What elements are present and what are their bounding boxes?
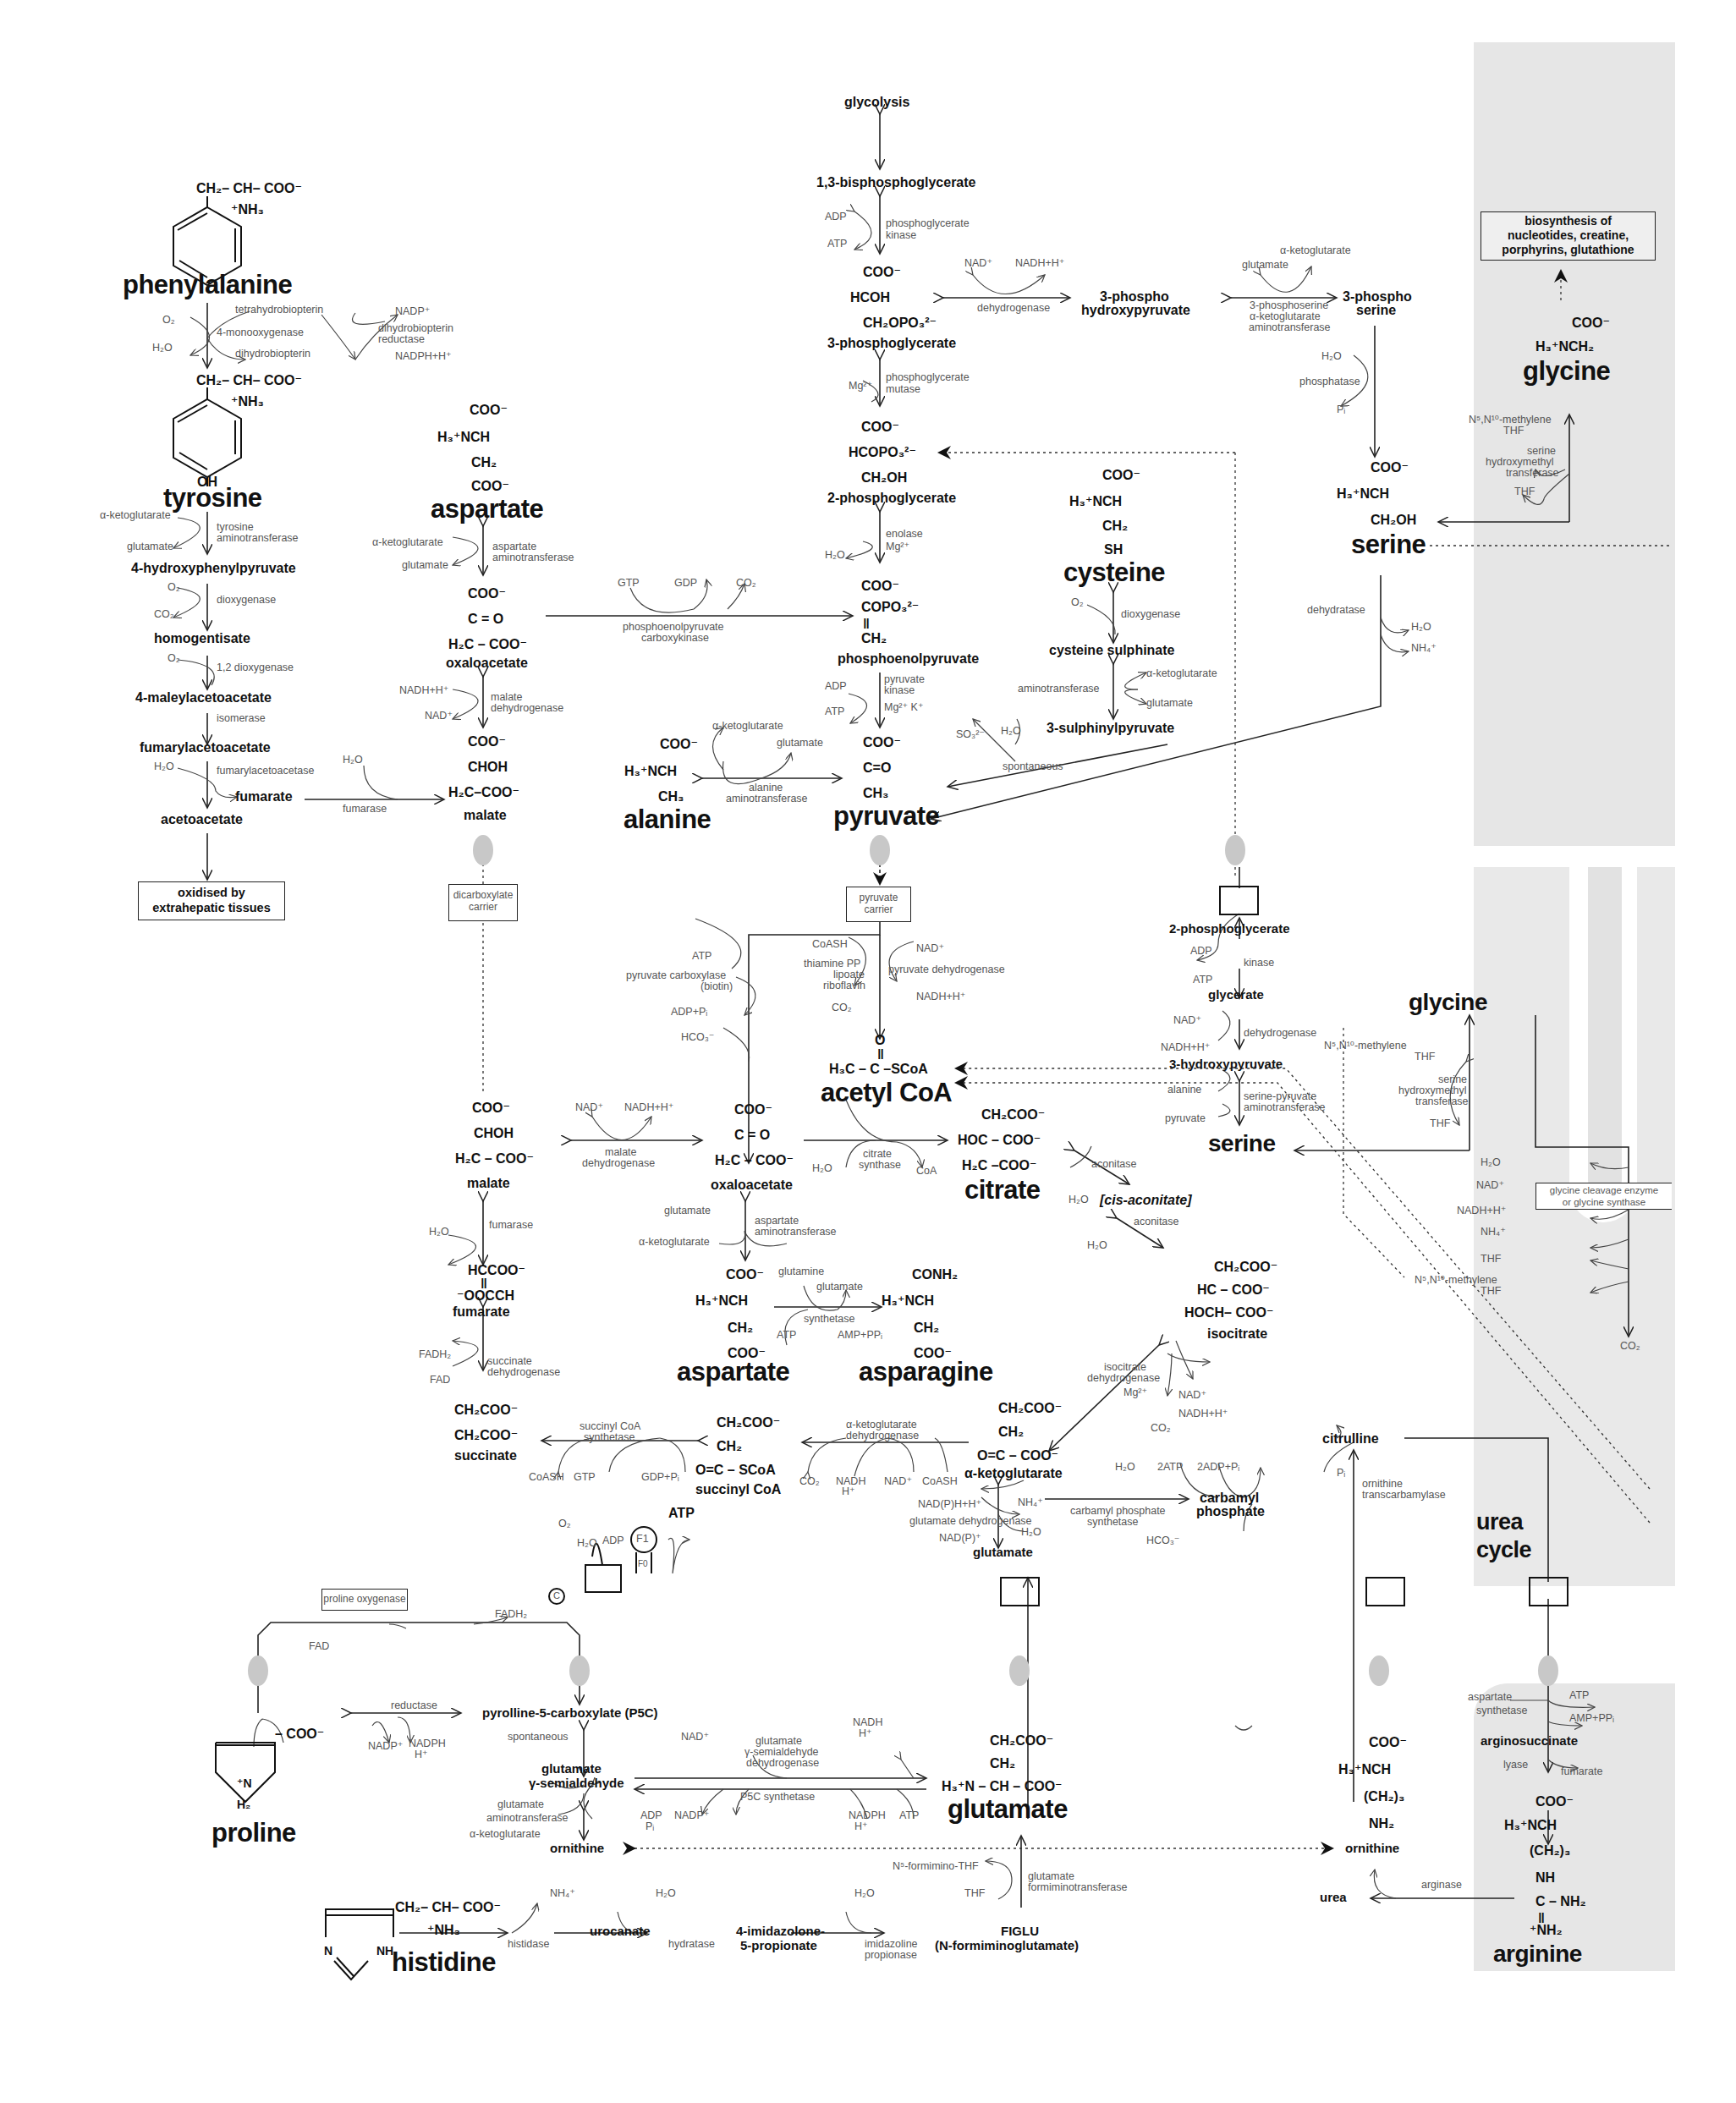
metabolite-pyruvate: pyruvate: [833, 802, 939, 831]
biosynthesis-box: biosynthesis of nucleotides, creatine, p…: [1481, 211, 1656, 261]
cofactor-fumarate-lyase: fumarate: [1561, 1766, 1602, 1778]
formula-glu-cyto-1: CH₂COO⁻: [990, 1732, 1053, 1749]
formula-ala-1: COO⁻: [660, 736, 698, 753]
cofactor-thf-ftcd: THF: [964, 1888, 985, 1900]
formula-glu-cyto-3: H₃⁺N – CH – COO⁻: [942, 1778, 1063, 1795]
enzyme-pc-2: (biotin): [700, 981, 733, 993]
cofactor-atp-p5cs: ATP: [899, 1810, 919, 1822]
enzyme-hydratase: hydratase: [668, 1939, 715, 1951]
cofactor-nadp-plus-gdh: NAD(P)⁺: [939, 1533, 981, 1545]
enzyme-histidase: histidase: [508, 1939, 549, 1951]
formula-scoa-3: O=C – SCoA: [695, 1462, 776, 1479]
cofactor-co2-pepck: CO₂: [736, 578, 756, 590]
enzyme-hppd: dioxygenase: [217, 595, 276, 607]
cofactor-methylene-thf-mito-1: N⁵,N¹⁰-methylene: [1324, 1041, 1407, 1052]
cofactor-nh4-gcs: NH₄⁺: [1481, 1227, 1506, 1238]
cofactor-h2o-aconitase-1: H₂O: [1069, 1194, 1089, 1206]
cofactor-glutamate-asns: glutamate: [816, 1282, 863, 1293]
metabolite-fumarate-cyto: fumarate: [235, 789, 293, 804]
formula-phe-1: CH₂– CH– COO⁻: [196, 180, 302, 197]
formula-pep-2: COPO₃²⁻: [861, 599, 919, 616]
urea-cycle-label-2: cycle: [1476, 1538, 1531, 1563]
enzyme-ass: synthetase: [1476, 1705, 1527, 1717]
metabolite-urea: urea: [1320, 1891, 1347, 1905]
cofactor-akg-cys: α-ketoglutarate: [1146, 668, 1217, 680]
cofactor-bh4: tetrahydrobiopterin: [235, 305, 323, 316]
enzyme-oat: aminotransferase: [486, 1813, 569, 1825]
cofactor-nh4-dehydratase: NH₄⁺: [1411, 643, 1437, 655]
metabolite-3-phospho-serine-2: serine: [1356, 303, 1396, 318]
cofactor-nadh-idh: NADH+H⁺: [1178, 1408, 1228, 1420]
cofactor-adp-kinase: ADP: [1190, 946, 1212, 958]
cofactor-nh4-gdh: NH₄⁺: [1018, 1497, 1043, 1509]
cofactor-mg: Mg²⁺: [849, 381, 872, 393]
cofactor-h2o-etc: H₂O: [577, 1538, 597, 1550]
cofactor-nadh-mdh-mito: NADH+H⁺: [624, 1102, 673, 1114]
metabolite-atp-bold: ATP: [668, 1506, 695, 1521]
formula-his-2: ⁺NH₃: [427, 1922, 460, 1939]
formula-scoa-2: CH₂: [717, 1438, 742, 1455]
formula-pyr-1: COO⁻: [863, 734, 901, 751]
formula-oaa-cyto-3: H₂C – COO⁻: [448, 636, 527, 653]
formula-ser-2: H₃⁺NCH: [1337, 486, 1389, 502]
cofactor-co2-pdh: CO₂: [832, 1002, 852, 1014]
enzyme-phosphoglycerate-kinase-2: kinase: [886, 230, 916, 242]
formula-arg-2: H₃⁺NCH: [1504, 1817, 1557, 1834]
metabolite-imidazolone-1: 4-imidazolone-: [736, 1925, 825, 1939]
metabolite-carbamyl-phosphate-1: carbamyl: [1200, 1491, 1259, 1506]
cofactor-methylene-thf-mito-2: THF: [1415, 1052, 1435, 1063]
biosynthesis-line-1: biosynthesis of: [1481, 214, 1655, 228]
metabolite-citrate: citrate: [964, 1176, 1041, 1205]
formula-isocit-3: HOCH– COO⁻: [1184, 1304, 1273, 1321]
formula-gly-top-1: COO⁻: [1572, 315, 1610, 332]
formula-glu-cyto-2: CH₂: [990, 1755, 1015, 1772]
metabolite-citrulline: citrulline: [1322, 1431, 1379, 1447]
cofactor-nadph-dhpr: NADPH+H⁺: [395, 351, 452, 363]
cofactor-adp-pi-pc: ADP+Pᵢ: [671, 1007, 707, 1019]
cofactor-h2o-hydratase: H₂O: [656, 1888, 676, 1900]
enzyme-tat-2: aminotransferase: [217, 533, 299, 545]
biosynthesis-line-2: nucleotides, creatine,: [1481, 228, 1655, 243]
enzyme-hgd: 1,2 dioxygenase: [217, 662, 294, 674]
formula-fum-mito-1: HCCOO⁻: [468, 1262, 525, 1279]
cofactor-h2o-gcs: H₂O: [1481, 1157, 1501, 1169]
cofactor-amp-ppi-ass: AMP+PPᵢ: [1569, 1713, 1614, 1725]
formula-gly-top-2: H₃⁺NCH₂: [1535, 338, 1594, 355]
formula-acoa-3: H₃C – C –SCoA: [829, 1061, 928, 1078]
complex-c-label: C: [553, 1590, 560, 1601]
enzyme-aconitase-1: aconitase: [1091, 1159, 1137, 1171]
metabolite-acetoacetate: acetoacetate: [161, 812, 243, 827]
enzyme-ast-mito-2: aminotransferase: [755, 1227, 837, 1238]
enzyme-psat-3: aminotransferase: [1249, 322, 1331, 334]
cofactor-h2o-gdh: H₂O: [1021, 1527, 1041, 1539]
cofactor-hco3-cps: HCO₃⁻: [1146, 1535, 1179, 1547]
metabolite-asparagine: asparagine: [859, 1358, 993, 1386]
enzyme-fumarase-mito: fumarase: [489, 1220, 533, 1232]
metabolite-cis-aconitate: [cis-aconitate]: [1100, 1193, 1191, 1208]
metabolite-ornithine-right: ornithine: [1345, 1842, 1399, 1856]
dicarboxylate-line-2: carrier: [449, 901, 517, 913]
formula-mal-mito-3: H₂C – COO⁻: [455, 1150, 534, 1167]
enzyme-pgdh: dehydrogenase: [977, 303, 1050, 315]
formula-2pg-2: HCOPO₃²⁻: [849, 444, 916, 461]
cofactor-nadp-p5c: NADP⁺: [368, 1741, 403, 1753]
metabolite-1-3-bisphosphoglycerate: 1,3-bisphosphoglycerate: [816, 175, 976, 190]
cofactor-gdp-pi-scs: GDP+Pᵢ: [641, 1472, 679, 1484]
cofactor-akg-tat: α-ketoglutarate: [100, 510, 171, 522]
formula-scoa-1: CH₂COO⁻: [717, 1414, 780, 1431]
cofactor-nadh-pdh: NADH+H⁺: [916, 991, 965, 1003]
cofactor-akg-ast-top: α-ketoglutarate: [372, 537, 443, 549]
cofactor-thf-top: THF: [1514, 486, 1535, 498]
cofactor-thf-mito: THF: [1430, 1118, 1450, 1130]
formula-akg-2: CH₂: [998, 1424, 1024, 1441]
oxidised-box: oxidised by extrahepatic tissues: [138, 881, 285, 920]
enzyme-phosphoglycerate-kinase-1: phosphoglycerate: [886, 218, 970, 230]
cofactor-2adp-pi-cps: 2ADP+Pᵢ: [1197, 1462, 1239, 1474]
cofactor-atp-asns: ATP: [777, 1330, 796, 1342]
enzyme-akgdh-2: dehydrogenase: [846, 1430, 919, 1442]
formula-akg-3: O=C – COO⁻: [977, 1447, 1058, 1464]
enzyme-g5sdh-3: dehydrogenase: [746, 1758, 819, 1770]
atp-synthase-f1-label: F1: [636, 1534, 649, 1546]
metabolite-figlu-2: (N-formiminoglutamate): [935, 1939, 1079, 1953]
dicarboxylate-line-1: dicarboxylate: [449, 889, 517, 901]
